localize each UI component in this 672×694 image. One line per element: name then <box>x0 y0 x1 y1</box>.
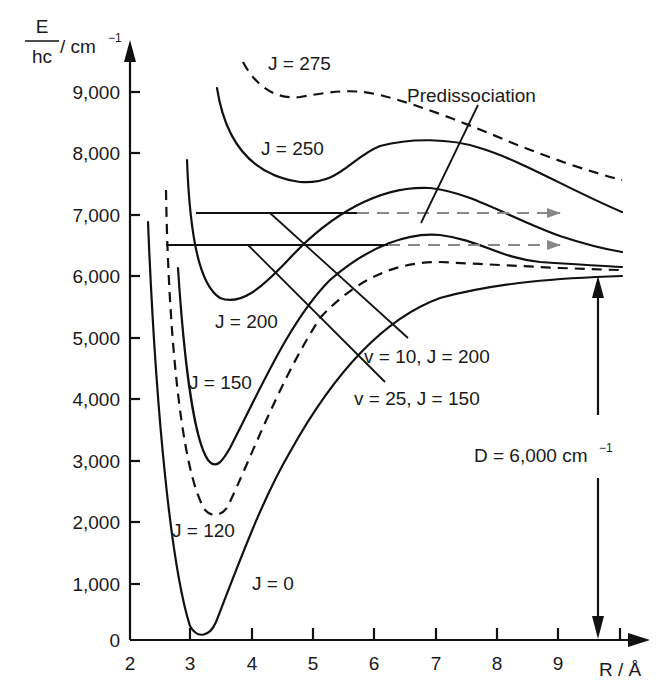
x-tick-8: 8 <box>492 653 503 674</box>
y-tick-8000: 8,000 <box>72 143 120 164</box>
y-tick-9000: 9,000 <box>72 82 120 103</box>
y-axis-arrow-icon <box>124 40 136 62</box>
y-label-denominator: hc <box>32 46 52 67</box>
y-axis-label: E hc / cm −1 <box>25 16 122 67</box>
x-tick-3: 3 <box>185 653 196 674</box>
x-tick-7: 7 <box>431 653 442 674</box>
curve-j275 <box>243 62 622 180</box>
x-tick-9: 9 <box>553 653 564 674</box>
x-tick-labels: 2 3 4 5 6 7 8 9 <box>125 653 564 674</box>
y-tick-labels: 9,000 8,000 7,000 6,000 5,000 4,000 3,00… <box>72 82 120 651</box>
label-v25-j150: v = 25, J = 150 <box>354 388 480 409</box>
potential-energy-chart: 9,000 8,000 7,000 6,000 5,000 4,000 3,00… <box>0 0 672 694</box>
arrow-up-icon <box>592 276 604 298</box>
x-axis <box>130 628 650 647</box>
label-j0: J = 0 <box>252 573 294 594</box>
x-tick-4: 4 <box>247 653 258 674</box>
label-j200: J = 200 <box>215 311 278 332</box>
label-v10-j200: v = 10, J = 200 <box>364 346 490 367</box>
arrow-down-icon <box>592 616 604 639</box>
x-axis-arrow-icon <box>628 633 650 647</box>
x-axis-label: R / Å <box>599 659 642 680</box>
y-tick-0: 0 <box>109 630 120 651</box>
label-dissociation-exponent: −1 <box>599 441 613 455</box>
label-j120: J = 120 <box>172 520 235 541</box>
x-tick-6: 6 <box>369 653 380 674</box>
y-label-numerator: E <box>36 16 49 37</box>
label-dissociation-energy: D = 6,000 cm <box>474 445 588 466</box>
y-tick-3000: 3,000 <box>72 451 120 472</box>
curve-j0 <box>148 222 622 635</box>
y-tick-4000: 4,000 <box>72 389 120 410</box>
x-tick-5: 5 <box>308 653 319 674</box>
y-tick-2000: 2,000 <box>72 512 120 533</box>
y-tick-6000: 6,000 <box>72 266 120 287</box>
label-j250: J = 250 <box>261 138 324 159</box>
label-j275: J = 275 <box>268 53 331 74</box>
leader-v10 <box>270 213 408 338</box>
dissociation-arrow <box>592 276 604 639</box>
y-label-exponent: −1 <box>108 31 122 45</box>
label-j150: J = 150 <box>189 372 252 393</box>
y-label-unit: / cm <box>60 36 96 57</box>
label-predissociation: Predissociation <box>407 85 536 106</box>
y-tick-7000: 7,000 <box>72 205 120 226</box>
y-tick-5000: 5,000 <box>72 328 120 349</box>
y-tick-1000: 1,000 <box>72 574 120 595</box>
y-axis <box>124 40 140 640</box>
x-tick-2: 2 <box>125 653 136 674</box>
leader-predissociation <box>421 105 478 223</box>
